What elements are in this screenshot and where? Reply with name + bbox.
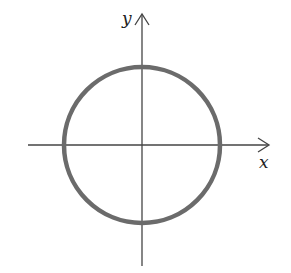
x-axis-label: x (259, 152, 269, 172)
y-axis-label: y (121, 8, 132, 28)
coordinate-diagram: x y (0, 0, 291, 273)
